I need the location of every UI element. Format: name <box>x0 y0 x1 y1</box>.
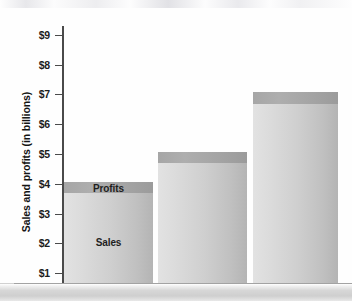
y-tick-mark-7 <box>55 94 63 95</box>
y-tick-mark-5 <box>55 154 63 155</box>
y-tick-label-6: $6 <box>10 119 50 130</box>
bar-1 <box>64 182 153 283</box>
y-tick-label-7: $7 <box>10 89 50 100</box>
y-tick-label-1: $1 <box>10 268 50 279</box>
y-tick-label-5: $5 <box>10 149 50 160</box>
y-tick-label-2: $2 <box>10 238 50 249</box>
y-tick-mark-9 <box>55 35 63 36</box>
y-tick-mark-1 <box>55 273 63 274</box>
y-tick-label-4: $4 <box>10 179 50 190</box>
page-bottom-shadow-band <box>0 284 352 301</box>
bar-2 <box>158 152 247 283</box>
y-tick-mark-4 <box>55 184 63 185</box>
y-tick-mark-6 <box>55 124 63 125</box>
y-tick-mark-8 <box>55 65 63 66</box>
y-tick-label-3: $3 <box>10 209 50 220</box>
y-tick-mark-3 <box>55 214 63 215</box>
bar-3 <box>253 92 338 283</box>
bar-3-sales-segment <box>253 104 338 283</box>
y-tick-label-9: $9 <box>10 30 50 41</box>
y-tick-label-8: $8 <box>10 60 50 71</box>
bar-1-sales-segment <box>64 193 153 283</box>
bar-2-sales-segment <box>158 163 247 283</box>
stacked-bar-chart: Sales and profits (in billions) $9 $8 $7… <box>0 0 352 301</box>
y-tick-mark-2 <box>55 243 63 244</box>
